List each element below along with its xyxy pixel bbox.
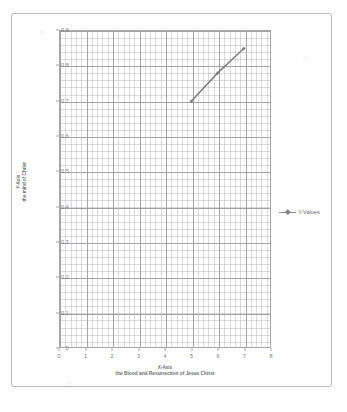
series-y-values[interactable] [189,47,245,103]
x-tick-mark [244,348,245,351]
y-tick-mark [56,136,59,137]
y-tick-mark [56,277,59,278]
series-layer [60,31,270,347]
y-tick-mark [56,312,59,313]
x-tick-mark [112,348,113,351]
y-tick-mark [56,30,59,31]
x-tick-label: 1 [78,353,94,359]
y-tick-mark [56,206,59,207]
y-axis-title: Y-Axis the mind of Christ [16,147,28,217]
x-tick-mark [165,348,166,351]
chart-legend[interactable]: Y-Values [279,209,320,215]
y-axis-title-line2: the mind of Christ [22,147,28,217]
y-tick-mark [56,242,59,243]
x-axis-title-line2: the Blood and Resurrection of Jesus Chri… [59,371,271,377]
x-tick-mark [85,348,86,351]
x-tick-label: 6 [210,353,226,359]
x-tick-mark [59,348,60,351]
y-tick-mark [56,65,59,66]
x-tick-label: 4 [157,353,173,359]
y-tick-mark [56,100,59,101]
plot-area [59,30,271,348]
legend-marker-icon [279,209,296,215]
x-tick-label: 2 [104,353,120,359]
x-tick-mark [218,348,219,351]
x-tick-mark [271,348,272,351]
x-tick-label: 3 [131,353,147,359]
chart-container: 00.10.20.30.40.50.60.70.80.9 012345678 X… [11,13,332,387]
x-tick-mark [138,348,139,351]
x-tick-mark [191,348,192,351]
x-axis-title: X-Axis the Blood and Resurrection of Jes… [59,365,271,378]
x-tick-label: 5 [184,353,200,359]
y-tick-mark [56,171,59,172]
chart-page: 00.10.20.30.40.50.60.70.80.9 012345678 X… [0,0,347,412]
x-tick-label: 8 [263,353,279,359]
legend-label: Y-Values [298,209,320,215]
x-tick-label: 0 [51,353,67,359]
x-tick-label: 7 [237,353,253,359]
